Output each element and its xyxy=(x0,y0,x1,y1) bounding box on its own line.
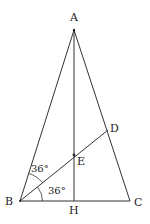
angle-arc-dbc xyxy=(38,187,43,201)
label-d: D xyxy=(110,122,119,135)
angle-label-dbc: 36° xyxy=(48,185,66,196)
angle-label-abd: 36° xyxy=(31,163,49,174)
segment-ac xyxy=(74,30,130,201)
point-a xyxy=(73,29,75,31)
label-a: A xyxy=(69,11,79,24)
geometry-diagram: A B C H E D 36° 36° xyxy=(0,0,150,224)
label-b: B xyxy=(5,195,13,208)
point-b xyxy=(19,200,21,202)
angle-arc-abd xyxy=(29,173,43,183)
segment-ab xyxy=(20,30,74,201)
label-c: C xyxy=(134,196,142,209)
label-e: E xyxy=(77,155,85,168)
point-e xyxy=(73,154,76,157)
label-h: H xyxy=(69,204,79,217)
